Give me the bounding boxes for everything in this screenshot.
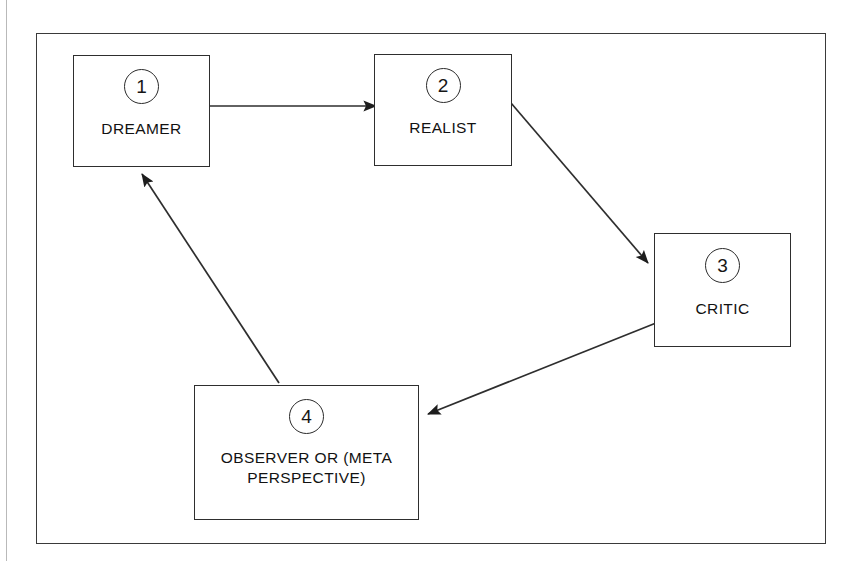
node-dreamer-label: DREAMER xyxy=(101,119,181,139)
node-critic[interactable]: 3 CRITIC xyxy=(654,233,791,347)
node-critic-number: 3 xyxy=(705,248,740,283)
node-dreamer[interactable]: 1 DREAMER xyxy=(73,55,210,167)
page-edge-line xyxy=(6,0,7,561)
node-observer-number: 4 xyxy=(289,399,324,434)
node-observer[interactable]: 4 OBSERVER OR (META PERSPECTIVE) xyxy=(194,385,419,520)
node-critic-label: CRITIC xyxy=(695,299,749,319)
node-realist-number: 2 xyxy=(426,68,461,103)
node-realist[interactable]: 2 REALIST xyxy=(374,54,512,166)
diagram-root: 1 DREAMER 2 REALIST 3 CRITIC 4 OBSERVER … xyxy=(0,0,856,571)
node-realist-label: REALIST xyxy=(409,118,476,138)
node-dreamer-number: 1 xyxy=(124,69,159,104)
node-observer-label: OBSERVER OR (META PERSPECTIVE) xyxy=(221,448,393,488)
